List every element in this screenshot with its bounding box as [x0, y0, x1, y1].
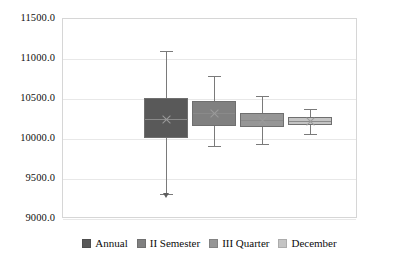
- y-axis-tick-label: 9000.0: [0, 213, 55, 224]
- legend-swatch-icon: [278, 239, 287, 248]
- y-axis-tick-label: 11500.0: [0, 13, 55, 24]
- lower-whisker: [262, 127, 263, 144]
- upper-whisker-cap: [160, 51, 173, 52]
- legend-item[interactable]: III Quarter: [209, 238, 269, 249]
- box-plot-series[interactable]: [240, 19, 284, 217]
- upper-whisker-cap: [208, 76, 221, 77]
- legend-item[interactable]: Annual: [82, 238, 127, 249]
- box-plot-series[interactable]: [192, 19, 236, 217]
- box-plot-chart: AnnualII SemesterIII QuarterDecember 115…: [0, 0, 419, 270]
- upper-whisker: [166, 51, 167, 98]
- y-axis-tick-label: 10000.0: [0, 133, 55, 144]
- upper-whisker: [310, 109, 311, 117]
- legend-item[interactable]: II Semester: [137, 238, 200, 249]
- legend-label: II Semester: [150, 238, 200, 249]
- median-line: [289, 121, 331, 122]
- upper-whisker: [214, 76, 215, 101]
- legend-label: Annual: [95, 238, 127, 249]
- chart-legend: AnnualII SemesterIII QuarterDecember: [0, 238, 419, 249]
- box-plot-series[interactable]: [288, 19, 332, 217]
- y-axis-tick-label: 10500.0: [0, 93, 55, 104]
- upper-whisker-cap: [256, 96, 269, 97]
- upper-whisker: [262, 96, 263, 113]
- median-line: [241, 120, 283, 121]
- lower-whisker: [310, 125, 311, 134]
- box-plot-series[interactable]: [144, 19, 188, 217]
- lower-whisker-cap: [304, 134, 317, 135]
- lower-whisker-cap: [208, 146, 221, 147]
- legend-swatch-icon: [209, 239, 218, 248]
- legend-swatch-icon: [82, 239, 91, 248]
- legend-item[interactable]: December: [278, 238, 336, 249]
- outlier-marker: [163, 193, 169, 198]
- y-axis-tick-label: 11000.0: [0, 53, 55, 64]
- legend-label: III Quarter: [222, 238, 269, 249]
- median-line: [145, 119, 187, 120]
- plot-area: [62, 18, 357, 218]
- legend-label: December: [291, 238, 336, 249]
- legend-swatch-icon: [137, 239, 146, 248]
- gridline: [63, 219, 356, 220]
- lower-whisker: [214, 126, 215, 146]
- box-rect[interactable]: [144, 98, 188, 138]
- median-line: [193, 113, 235, 114]
- upper-whisker-cap: [304, 109, 317, 110]
- y-axis-tick-label: 9500.0: [0, 173, 55, 184]
- lower-whisker: [166, 138, 167, 194]
- lower-whisker-cap: [256, 144, 269, 145]
